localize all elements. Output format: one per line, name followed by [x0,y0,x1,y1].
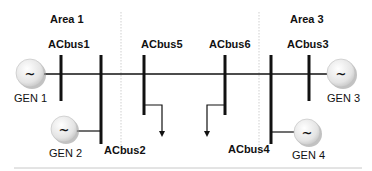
gen2-generator[interactable]: ~ [51,116,79,144]
load-acbus5-line [144,105,162,132]
gen1-generator[interactable]: ~ [16,59,46,89]
gen4-generator[interactable]: ~ [294,119,322,147]
acbus5-label: ACbus5 [141,38,183,50]
sine-wave-icon: ~ [336,66,347,81]
acbus3-label: ACbus3 [287,38,329,50]
sine-wave-icon: ~ [25,66,36,81]
gen3-generator[interactable]: ~ [327,59,357,89]
load-acbus6-line [207,105,225,132]
load-acbus6-arrow-icon [204,131,210,137]
area1-label: Area 1 [50,13,84,25]
power-system-diagram: ~ ~ ~ ~ Area 1 Area 3 ACbus1 ACbus2 ACbu… [0,0,372,171]
acbus1-label: ACbus1 [48,38,90,50]
gen4-label: GEN 4 [292,149,325,161]
acbus4-label: ACbus4 [228,143,270,155]
gen2-label: GEN 2 [49,147,82,159]
sine-wave-icon: ~ [59,122,70,137]
gen3-label: GEN 3 [327,92,360,104]
acbus6-label: ACbus6 [209,38,251,50]
load-acbus5-arrow-icon [159,131,165,137]
acbus2-label: ACbus2 [104,144,146,156]
sine-wave-icon: ~ [302,125,313,140]
gen1-label: GEN 1 [14,92,47,104]
area3-label: Area 3 [290,13,324,25]
